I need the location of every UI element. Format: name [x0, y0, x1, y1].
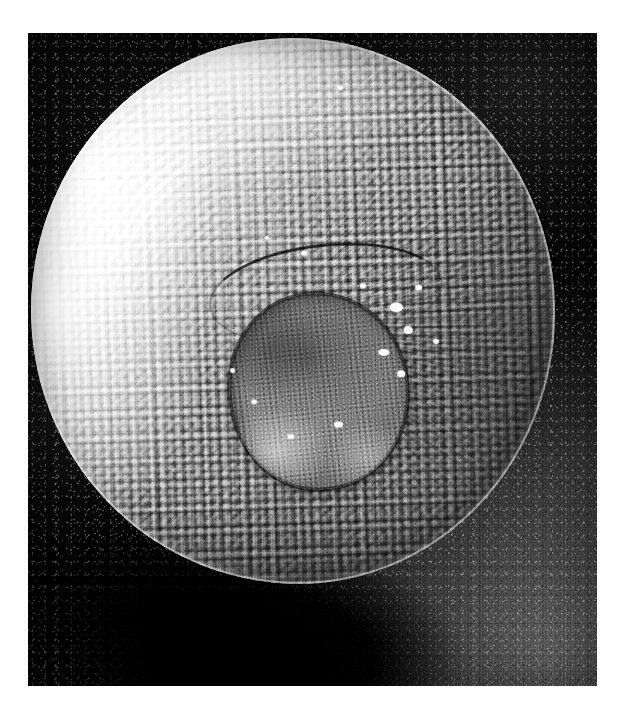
- debris-fleck: [378, 349, 389, 356]
- specimen-sphere: [28, 33, 564, 593]
- debris-fleck: [264, 235, 269, 239]
- debris-fleck: [397, 370, 405, 377]
- photographic-plate: [28, 33, 597, 686]
- figure-caption: [28, 692, 597, 712]
- debris-fleck: [433, 339, 439, 344]
- operculum-plug: [219, 283, 420, 499]
- debris-fleck: [390, 302, 403, 312]
- debris-fleck: [287, 434, 294, 439]
- debris-fleck: [229, 368, 234, 373]
- operculum-grain: [219, 283, 420, 499]
- debris-fleck: [334, 421, 343, 427]
- micrograph-page: [0, 0, 627, 716]
